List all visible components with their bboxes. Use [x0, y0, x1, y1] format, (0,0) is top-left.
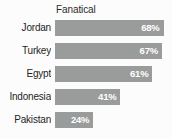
chart-title: Fanatical — [56, 4, 96, 15]
bar-track: 68% — [55, 20, 170, 36]
bar-row: Jordan 68% — [0, 20, 172, 36]
bar-value-pakistan: 24% — [71, 112, 89, 128]
bar-value-egypt: 61% — [130, 66, 148, 82]
bar-pakistan[interactable]: 24% — [55, 112, 93, 128]
bar-turkey[interactable]: 67% — [55, 43, 162, 59]
bar-row: Egypt 61% — [0, 66, 172, 82]
category-label-pakistan: Pakistan — [0, 112, 51, 128]
bar-indonesia[interactable]: 41% — [55, 89, 120, 105]
bar-value-turkey: 67% — [140, 43, 158, 59]
bar-track: 61% — [55, 66, 170, 82]
bar-row: Indonesia 41% — [0, 89, 172, 105]
category-label-egypt: Egypt — [0, 66, 51, 82]
category-label-turkey: Turkey — [0, 43, 51, 59]
bar-track: 24% — [55, 112, 170, 128]
bar-value-jordan: 68% — [141, 20, 159, 36]
bar-row: Turkey 67% — [0, 43, 172, 59]
bar-chart: Fanatical Jordan 68% Turkey 67% Egypt 61 — [0, 0, 172, 138]
category-label-indonesia: Indonesia — [0, 89, 51, 105]
bar-egypt[interactable]: 61% — [55, 66, 152, 82]
bar-row: Pakistan 24% — [0, 112, 172, 128]
bar-value-indonesia: 41% — [98, 89, 116, 105]
category-label-jordan: Jordan — [0, 20, 51, 36]
bar-jordan[interactable]: 68% — [55, 20, 164, 36]
bar-track: 41% — [55, 89, 170, 105]
bar-track: 67% — [55, 43, 170, 59]
bar-list: Jordan 68% Turkey 67% Egypt 61% — [0, 20, 172, 128]
